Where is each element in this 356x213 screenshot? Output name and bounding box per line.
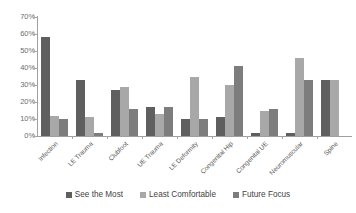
- x-axis-tick-label: UE Trauma: [135, 140, 163, 168]
- y-axis-tick-label: 30%: [5, 81, 35, 89]
- x-axis-tick-label: LE Trauma: [66, 140, 93, 167]
- x-axis-tick-label: Neuromuscular: [267, 140, 303, 176]
- bar: [199, 119, 208, 136]
- legend-label: Future Focus: [242, 190, 290, 199]
- chart-legend: See the MostLeast ComfortableFuture Focu…: [0, 190, 356, 199]
- legend-swatch-icon: [66, 192, 72, 198]
- x-axis-tick-label: LE Deformity: [167, 140, 198, 171]
- y-axis-tick-label: 0%: [5, 132, 35, 140]
- bar: [76, 80, 85, 136]
- legend-item: See the Most: [66, 190, 123, 199]
- bar: [234, 66, 243, 136]
- bar: [164, 107, 173, 136]
- bar: [50, 116, 59, 136]
- bar: [269, 109, 278, 136]
- x-axis-line: [37, 136, 352, 137]
- bar: [251, 133, 260, 136]
- y-axis-tick-label: 40%: [5, 64, 35, 72]
- x-axis-tick-label: Infection: [36, 140, 58, 162]
- y-axis-tick-label: 70%: [5, 13, 35, 21]
- bar: [120, 87, 129, 136]
- legend-item: Least Comfortable: [140, 190, 216, 199]
- bar: [304, 80, 313, 136]
- y-axis-tick-mark: [33, 68, 37, 69]
- bar-chart: 70%60%50%40%30%20%10%0% InfectionLE Trau…: [0, 0, 356, 213]
- y-axis-tick-labels: 70%60%50%40%30%20%10%0%: [0, 0, 35, 213]
- x-axis-tick-mark: [177, 136, 178, 139]
- bar: [129, 109, 138, 136]
- y-axis-tick-mark: [33, 102, 37, 103]
- y-axis-tick-label: 50%: [5, 47, 35, 55]
- legend-label: See the Most: [75, 190, 123, 199]
- y-axis-tick-mark: [33, 17, 37, 18]
- x-axis-tick-label: Clubfoot: [106, 140, 128, 162]
- y-axis-tick-label: 10%: [5, 115, 35, 123]
- bar: [111, 90, 120, 136]
- legend-label: Least Comfortable: [149, 190, 216, 199]
- x-axis-tick-mark: [247, 136, 248, 139]
- bar: [286, 133, 295, 136]
- y-axis-tick-mark: [33, 85, 37, 86]
- x-axis-tick-mark: [72, 136, 73, 139]
- bar: [190, 77, 199, 137]
- bar: [181, 119, 190, 136]
- y-axis-tick-mark: [33, 136, 37, 137]
- bar: [216, 117, 225, 136]
- bar: [94, 133, 103, 136]
- y-axis-tick-mark: [33, 34, 37, 35]
- legend-swatch-icon: [140, 192, 146, 198]
- legend-item: Future Focus: [233, 190, 290, 199]
- y-axis-tick-mark: [33, 119, 37, 120]
- bar: [41, 37, 50, 136]
- x-axis-tick-mark: [107, 136, 108, 139]
- bar: [321, 80, 330, 136]
- bar: [295, 58, 304, 136]
- y-axis-tick-label: 20%: [5, 98, 35, 106]
- x-axis-tick-mark: [142, 136, 143, 139]
- y-axis-tick-mark: [33, 51, 37, 52]
- bar: [85, 117, 94, 136]
- x-axis-tick-label: Spine: [322, 140, 339, 157]
- bar: [330, 80, 339, 136]
- x-axis-tick-mark: [317, 136, 318, 139]
- x-axis-tick-label: Congenital Hip: [198, 140, 233, 175]
- x-axis-tick-mark: [212, 136, 213, 139]
- bar: [260, 111, 269, 137]
- bar: [146, 107, 155, 136]
- y-axis-tick-label: 60%: [5, 30, 35, 38]
- bar: [225, 85, 234, 136]
- legend-swatch-icon: [233, 192, 239, 198]
- x-axis-tick-label: Congenital UE: [234, 140, 269, 175]
- bar: [155, 114, 164, 136]
- y-axis-line: [37, 16, 38, 137]
- x-axis-tick-mark: [282, 136, 283, 139]
- bar: [59, 119, 68, 136]
